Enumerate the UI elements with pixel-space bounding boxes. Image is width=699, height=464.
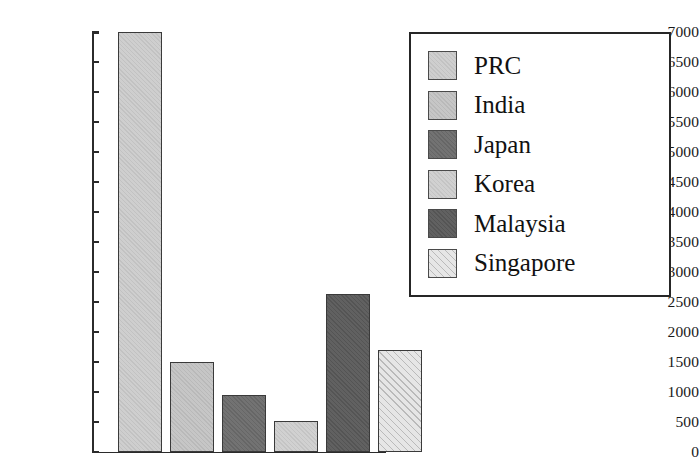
legend-swatch-japan <box>428 130 457 159</box>
legend-label: India <box>474 92 525 118</box>
legend-swatch-malaysia <box>428 209 457 238</box>
legend-item-korea: Korea <box>428 165 658 205</box>
legend-swatch-pattern <box>429 92 456 119</box>
legend-label: Singapore <box>474 250 575 276</box>
bar-fill-pattern <box>275 422 317 451</box>
legend-swatch-pattern <box>429 171 456 198</box>
legend-swatch-pattern <box>429 52 456 79</box>
bar-malaysia <box>326 294 370 452</box>
y-axis-tick-label: 1500 <box>615 354 699 370</box>
legend-item-japan: Japan <box>428 125 658 165</box>
legend-swatch-india <box>428 91 457 120</box>
legend-item-india: India <box>428 86 658 126</box>
legend: PRCIndiaJapanKoreaMalaysiaSingapore <box>409 32 671 297</box>
plot-area <box>92 33 386 452</box>
y-axis-tick-label: 1000 <box>615 384 699 400</box>
legend-swatch-singapore <box>428 249 457 278</box>
legend-label: Korea <box>474 171 535 197</box>
bar-prc <box>118 32 162 452</box>
y-axis-tick-label: 2000 <box>615 324 699 340</box>
y-axis-tick-label: 500 <box>615 414 699 430</box>
legend-label: Malaysia <box>474 211 566 237</box>
bar-fill-pattern <box>379 351 421 451</box>
bar-singapore <box>378 350 422 452</box>
legend-item-malaysia: Malaysia <box>428 204 658 244</box>
legend-swatch-pattern <box>429 250 456 277</box>
bar-fill-pattern <box>223 396 265 451</box>
bar-fill-pattern <box>119 33 161 451</box>
legend-item-prc: PRC <box>428 46 658 86</box>
bar-korea <box>274 421 318 452</box>
legend-swatch-korea <box>428 170 457 199</box>
legend-swatch-pattern <box>429 210 456 237</box>
bar-india <box>170 362 214 452</box>
legend-item-list: PRCIndiaJapanKoreaMalaysiaSingapore <box>428 46 658 283</box>
legend-label: Japan <box>474 132 531 158</box>
bar-fill-pattern <box>327 295 369 451</box>
bar-chart-figure: 7000650060005500500045004000350030002500… <box>0 0 699 464</box>
legend-item-singapore: Singapore <box>428 244 658 284</box>
bar-japan <box>222 395 266 452</box>
legend-label: PRC <box>474 53 521 79</box>
bar-fill-pattern <box>171 363 213 451</box>
legend-swatch-prc <box>428 51 457 80</box>
legend-swatch-pattern <box>429 131 456 158</box>
y-axis-tick-label: 0 <box>615 444 699 460</box>
